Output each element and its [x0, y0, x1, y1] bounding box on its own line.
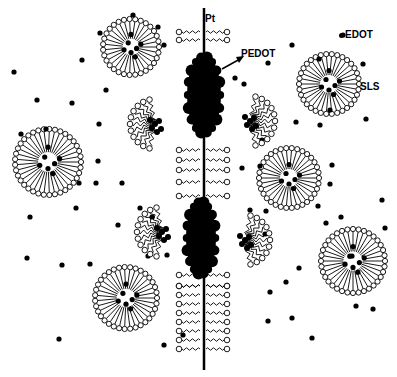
edot-dot: [327, 181, 332, 186]
edot-dot: [363, 116, 368, 121]
edot-dot: [315, 203, 320, 208]
edot-dot: [241, 81, 246, 86]
edot-dot: [338, 214, 343, 219]
edot-dot: [309, 335, 314, 340]
edot-dot: [96, 121, 101, 126]
edot-dot: [267, 289, 272, 294]
sls-label: SLS: [360, 82, 379, 92]
edot-dot: [316, 56, 321, 61]
hemimicelle: [127, 97, 164, 151]
edot-dot: [263, 208, 268, 213]
edot-dot-icon: [339, 33, 344, 38]
edot-dot: [289, 42, 294, 47]
micelle: [101, 16, 162, 77]
micelle: [13, 126, 84, 197]
edot-legend: EDOT: [339, 30, 373, 40]
edot-dot: [27, 214, 32, 219]
edot-dot: [73, 205, 78, 210]
micelle: [318, 226, 387, 295]
edot-dot: [239, 165, 244, 170]
pedot-label: PEDOT: [241, 49, 275, 59]
micelle: [93, 264, 160, 331]
edot-dot: [97, 30, 102, 35]
hemimicelle: [237, 213, 273, 267]
edot-dot: [283, 279, 288, 284]
edot-dot: [257, 163, 262, 168]
edot-dot: [360, 61, 365, 66]
edot-dot: [95, 158, 100, 163]
edot-dot: [382, 225, 387, 230]
edot-dot: [379, 197, 384, 202]
edot-dot: [130, 12, 135, 17]
edot-dot: [329, 162, 334, 167]
edot-dot: [155, 24, 160, 29]
edot-dot: [232, 75, 237, 80]
micelle: [256, 146, 321, 211]
edot-dot: [289, 315, 294, 320]
edot-dot: [161, 42, 166, 47]
edot-dot: [69, 100, 74, 105]
edot-dot: [103, 87, 108, 92]
edot-dot: [164, 252, 169, 257]
edot-dot: [161, 342, 166, 347]
edot-dot: [11, 69, 16, 74]
edot-dot: [119, 180, 124, 185]
edot-label: EDOT: [345, 29, 373, 40]
edot-dot: [24, 255, 29, 260]
edot-dot: [317, 122, 322, 127]
edot-dot: [18, 131, 23, 136]
edot-dot: [137, 205, 142, 210]
edot-dot: [34, 97, 39, 102]
edot-dot: [93, 180, 98, 185]
edot-dot: [349, 253, 354, 258]
micelle-electropolymerization-diagram: [0, 0, 397, 377]
edot-dot: [76, 180, 81, 185]
hemimicelle: [134, 205, 171, 259]
edot-dot: [87, 261, 92, 266]
edot-dot: [265, 60, 270, 65]
pedot-blob: [182, 196, 221, 279]
edot-dot: [296, 265, 301, 270]
edot-dot: [265, 318, 270, 323]
edot-dot: [56, 336, 61, 341]
edot-dot: [323, 220, 328, 225]
micelle: [296, 52, 361, 117]
edot-dot: [327, 107, 332, 112]
edot-dot: [247, 207, 252, 212]
edot-dot: [293, 119, 298, 124]
edot-dot: [79, 57, 84, 62]
pedot-blob: [183, 52, 225, 139]
edot-dot: [115, 222, 120, 227]
electrode-label: Pt: [205, 14, 215, 24]
edot-dot: [43, 126, 48, 131]
edot-dot: [370, 306, 375, 311]
edot-dot: [353, 303, 358, 308]
edot-dot: [59, 262, 64, 267]
